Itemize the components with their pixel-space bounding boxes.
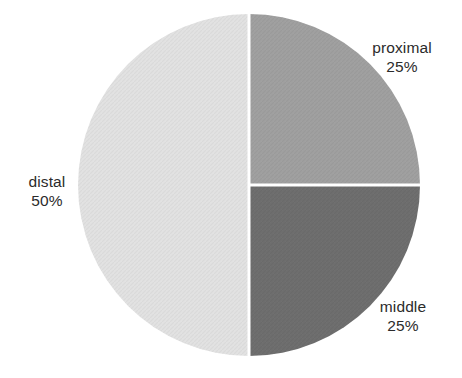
pie-chart-figure: proximal 25% distal 50% middle 25%	[0, 0, 462, 378]
pie-slice-distal-texture	[78, 14, 249, 356]
pie-label-proximal: proximal 25%	[343, 38, 461, 76]
pie-label-proximal-value: 25%	[343, 57, 461, 76]
pie-label-middle-value: 25%	[348, 316, 458, 335]
pie-label-middle: middle 25%	[348, 297, 458, 335]
pie-label-proximal-name: proximal	[343, 38, 461, 57]
pie-label-distal: distal 50%	[4, 172, 90, 210]
pie-label-middle-name: middle	[348, 297, 458, 316]
pie-label-distal-value: 50%	[4, 191, 90, 210]
pie-label-distal-name: distal	[4, 172, 90, 191]
